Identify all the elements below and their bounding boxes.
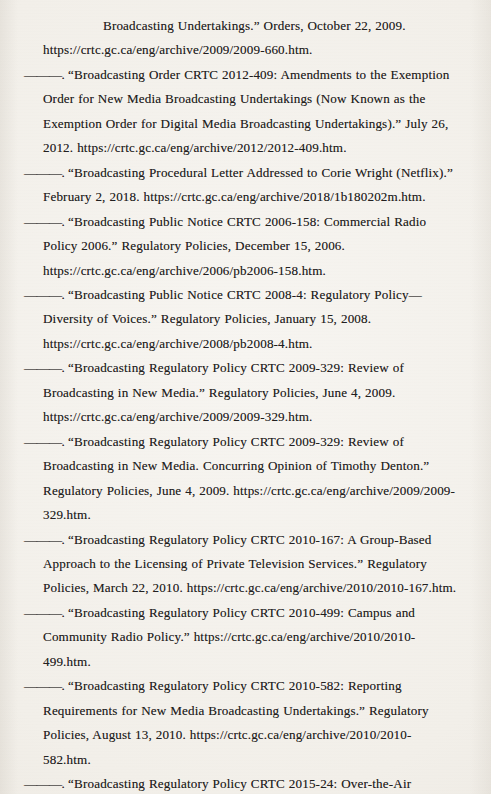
entry-text: “Broadcasting Regulatory Policy CRTC 201… [43,776,456,794]
author-repeat-dash: ———. [24,532,64,547]
entry-text: “Broadcasting Regulatory Policy CRTC 200… [43,360,404,424]
entry-text: “Broadcasting Regulatory Policy CRTC 201… [43,605,415,669]
author-repeat-dash: ———. [24,67,64,82]
bibliography-entry: Broadcasting Undertakings.” Orders, Octo… [24,14,458,63]
author-repeat-dash: ———. [24,605,64,620]
entry-text: “Broadcasting Public Notice CRTC 2006-15… [43,214,426,278]
entry-text: “Broadcasting Order CRTC 2012-409: Amend… [43,67,449,155]
bibliography-entry: ———. “Broadcasting Regulatory Policy CRT… [24,430,458,528]
bibliography-entry: ———. “Broadcasting Order CRTC 2012-409: … [24,63,458,161]
entry-text: “Broadcasting Regulatory Policy CRTC 201… [43,678,429,766]
author-repeat-dash: ———. [24,434,64,449]
entry-text: “Broadcasting Regulatory Policy CRTC 200… [43,434,455,522]
bibliography-entry: ———. “Broadcasting Regulatory Policy CRT… [24,674,458,772]
bibliography-entry: ———. “Broadcasting Procedural Letter Add… [24,161,458,210]
entry-text: “Broadcasting Public Notice CRTC 2008-4:… [43,287,422,351]
author-repeat-dash: ———. [24,165,64,180]
author-repeat-dash: ———. [24,776,64,791]
bibliography-entry: ———. “Broadcasting Regulatory Policy CRT… [24,356,458,429]
bibliography-entry: ———. “Broadcasting Public Notice CRTC 20… [24,283,458,356]
author-repeat-dash: ———. [24,678,64,693]
bibliography-entry: ———. “Broadcasting Regulatory Policy CRT… [24,772,458,794]
bibliography-entry: ———. “Broadcasting Regulatory Policy CRT… [24,601,458,674]
entry-text: “Broadcasting Procedural Letter Addresse… [43,165,453,204]
bibliography-entry-list: Broadcasting Undertakings.” Orders, Octo… [24,14,458,794]
bibliography-entry: ———. “Broadcasting Public Notice CRTC 20… [24,210,458,283]
author-repeat-dash: ———. [24,214,64,229]
entry-text: “Broadcasting Regulatory Policy CRTC 201… [43,532,456,596]
bibliography-entry: ———. “Broadcasting Regulatory Policy CRT… [24,528,458,601]
author-repeat-dash: ———. [24,360,64,375]
author-repeat-dash: ———. [24,287,64,302]
